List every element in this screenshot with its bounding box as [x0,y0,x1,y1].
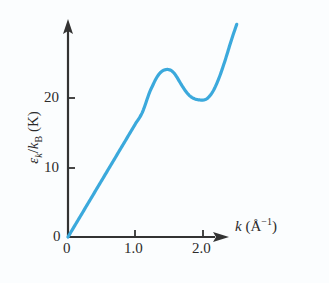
plot-canvas [0,0,329,283]
x-axis-title-unit-close: ) [272,218,277,234]
y-tick-label-20: 20 [44,90,59,105]
y-axis-title-epsilon: ε [25,158,41,164]
dispersion-curve-line [68,24,237,237]
x-tick-label-2: 2.0 [192,241,211,256]
y-axis-title-kb-subscript: B [33,136,44,143]
y-axis [63,19,75,237]
x-axis-title-unit-open: (Å [242,218,262,234]
x-axis-title-unit-exponent: −1 [261,216,272,227]
x-tick-label-0: 0 [63,241,71,256]
x-axis-title-symbol: k [235,218,242,234]
y-axis-title-slash: / [25,149,41,153]
x-axis-arrowhead [213,232,229,242]
y-tick-label-0: 0 [53,229,61,244]
x-axis-title: k (Å−1) [235,219,277,234]
y-tick-label-10: 10 [44,160,59,175]
y-axis-title-kb-symbol: k [25,143,41,150]
x-tick-label-1: 1.0 [124,241,143,256]
y-axis-title-unit: (K) [25,111,41,136]
dispersion-curve-figure: 0 1.0 2.0 0 10 20 k (Å−1) εk/kB (K) [0,0,329,283]
y-axis-title: εk/kB (K) [26,83,41,193]
y-axis-title-epsilon-subscript: k [33,153,44,157]
